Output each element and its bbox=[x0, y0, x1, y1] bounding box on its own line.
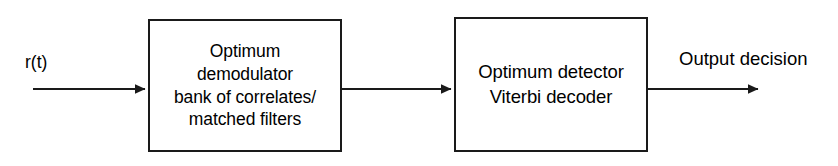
block-optimum-demodulator: Optimum demodulator bank of correlates/ … bbox=[148, 19, 342, 152]
block-detector-line-1: Optimum detector bbox=[478, 60, 623, 84]
input-signal-label: r(t) bbox=[25, 52, 47, 73]
block-detector-line-2: Viterbi decoder bbox=[490, 85, 613, 109]
block-demodulator-line-2: demodulator bbox=[197, 63, 293, 86]
block-demodulator-line-3: bank of correlates/ bbox=[174, 86, 316, 109]
block-demodulator-line-1: Optimum bbox=[210, 40, 280, 63]
block-optimum-detector: Optimum detector Viterbi decoder bbox=[454, 17, 648, 152]
block-demodulator-line-4: matched filters bbox=[189, 108, 301, 131]
output-decision-label: Output decision bbox=[679, 48, 808, 70]
block-diagram: Optimum demodulator bank of correlates/ … bbox=[0, 0, 838, 166]
diagram-connectors-layer bbox=[0, 0, 838, 166]
